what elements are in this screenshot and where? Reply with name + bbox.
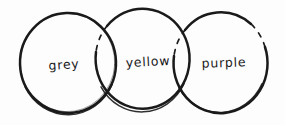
circle-label-yellow: yellow: [125, 53, 170, 70]
circle-label-purple: purple: [201, 54, 246, 71]
sketch-canvas: grey yellow purple: [0, 0, 285, 125]
circle-label-grey: grey: [48, 56, 80, 73]
venn-sketch: grey yellow purple: [0, 0, 285, 125]
